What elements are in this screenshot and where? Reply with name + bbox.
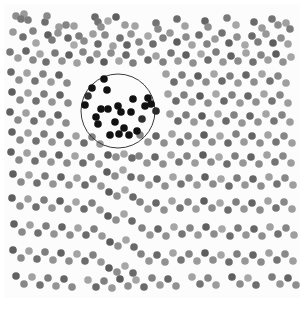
data-point [79,159,87,167]
data-point [200,131,208,139]
data-point [121,262,129,270]
data-point [289,257,297,265]
data-point [43,12,51,20]
data-point [172,97,180,105]
data-point [250,18,258,26]
data-point [103,168,111,176]
data-point [212,48,220,56]
data-point [286,25,294,33]
data-point [173,38,181,46]
data-point [282,79,290,87]
data-point [123,41,131,49]
data-point [57,173,65,181]
data-point [241,181,249,189]
data-point [156,281,164,289]
data-point [137,250,145,258]
data-point [51,49,59,57]
data-point [19,33,27,41]
data-point [257,182,265,190]
data-point [121,186,129,194]
data-point [265,249,273,257]
data-point [241,257,249,265]
data-point [9,170,17,178]
data-point [232,21,240,29]
data-point [33,179,41,187]
data-point [89,30,97,38]
data-point [55,151,63,159]
data-point [225,182,233,190]
data-point [128,154,136,162]
data-point [137,174,145,182]
data-point [132,276,140,284]
data-point [177,180,185,188]
data-point [16,136,24,144]
data-point [32,203,40,211]
data-point [29,27,37,35]
data-point [42,222,50,230]
data-point [248,132,256,140]
data-point [144,205,152,213]
data-point [135,38,143,46]
data-point [247,153,255,161]
data-point [204,274,212,282]
data-point [112,13,120,21]
data-point [226,72,234,80]
data-point [169,249,177,257]
data-point [274,230,282,238]
data-point [287,53,295,61]
data-point [288,205,296,213]
data-point [249,251,257,259]
data-point-cluster [81,101,89,109]
data-point [188,98,196,106]
data-point [218,29,226,37]
data-point [15,76,23,84]
data-point [144,56,152,64]
data-point [289,181,297,189]
data-point [277,34,285,42]
data-point [112,216,120,224]
data-point [146,231,154,239]
data-point [166,29,174,37]
data-point [233,33,241,41]
data-point [224,206,232,214]
data-point [30,117,38,125]
data-point [129,59,137,67]
data-point [29,56,37,64]
scatter-plot-canvas [0,0,304,311]
data-point [72,132,80,140]
data-point [94,40,102,48]
data-point [169,173,177,181]
data-point [26,221,34,229]
data-point [195,31,203,39]
data-point [250,225,258,233]
data-point [268,273,276,281]
data-point [32,137,40,145]
data-point [208,138,216,146]
data-point [177,256,185,264]
data-point [234,57,242,65]
data-point [230,111,238,119]
data-point [6,48,14,56]
data-point [252,281,260,289]
data-point [107,49,115,57]
data-point [182,51,190,59]
data-point [39,150,47,158]
data-point [254,38,262,46]
data-point [228,273,236,281]
data-point [197,50,205,58]
data-point [49,256,57,264]
data-point [62,119,70,127]
data-point [152,132,160,140]
data-point [190,118,198,126]
data-point-cluster [94,120,102,128]
data-point [108,284,116,292]
data-point [170,78,178,86]
data-point [41,172,49,180]
data-point [241,41,249,49]
data-point [88,199,96,207]
data-point [173,15,181,23]
data-point [263,151,271,159]
data-point [279,152,287,160]
data-point [32,39,40,47]
data-point [120,210,128,218]
